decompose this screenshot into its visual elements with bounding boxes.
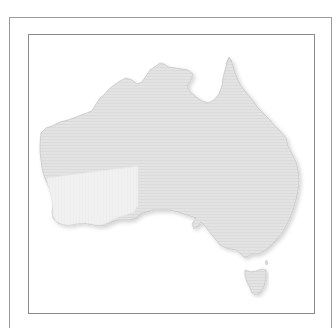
bass-strait-island: [265, 260, 268, 265]
tasmania: [245, 269, 266, 295]
australia-map: [0, 0, 336, 328]
map-canvas: Australia: [0, 0, 336, 328]
mainland-australia: [40, 58, 299, 258]
